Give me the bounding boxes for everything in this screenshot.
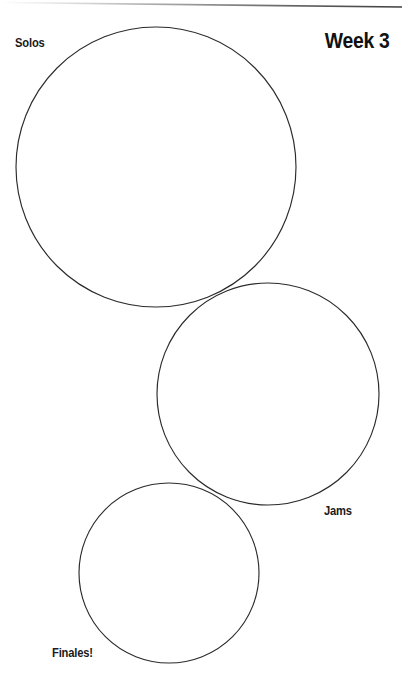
diagram-svg [0, 0, 402, 685]
circle-solos[interactable] [16, 27, 296, 307]
circle-label-jams: Jams [324, 503, 352, 518]
circle-finales[interactable] [79, 483, 259, 663]
page-top-rule [0, 3, 402, 8]
circle-label-solos: Solos [15, 35, 45, 50]
circle-jams[interactable] [157, 283, 379, 505]
circle-label-finales: Finales! [52, 645, 93, 660]
page-title: Week 3 [325, 28, 390, 54]
page-canvas: Week 3 Solos Jams Finales! [0, 0, 402, 685]
